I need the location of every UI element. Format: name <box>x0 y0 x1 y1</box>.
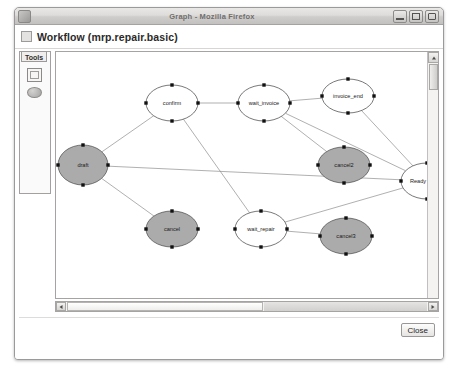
node-resize-handle[interactable] <box>344 216 347 219</box>
node-resize-handle[interactable] <box>288 101 291 104</box>
node-resize-handle[interactable] <box>56 163 59 166</box>
graph-edge[interactable] <box>102 178 154 216</box>
node-resize-handle[interactable] <box>342 145 345 148</box>
node-resize-handle[interactable] <box>170 209 173 212</box>
main-region: Tools draftconfirmwait_invoiceinvoice_en… <box>19 51 439 359</box>
node-label: wait_repair <box>246 226 274 232</box>
workflow-graph[interactable]: draftconfirmwait_invoiceinvoice_endcance… <box>56 52 427 298</box>
horizontal-scrollbar-track[interactable] <box>264 302 427 311</box>
chevron-left-icon <box>60 305 63 309</box>
node-resize-handle[interactable] <box>262 119 265 122</box>
node-resize-handle[interactable] <box>320 94 323 97</box>
node-label: cancel3 <box>336 233 355 239</box>
node-resize-handle[interactable] <box>236 101 239 104</box>
node-resize-handle[interactable] <box>368 163 371 166</box>
node-label: cancel2 <box>334 162 353 168</box>
node-resize-handle[interactable] <box>170 119 173 122</box>
vertical-scrollbar-thumb[interactable] <box>429 64 438 90</box>
graph-node-ready_repair[interactable]: Ready Repair <box>399 161 427 200</box>
scroll-left-button[interactable] <box>56 302 66 311</box>
node-resize-handle[interactable] <box>318 234 321 237</box>
firefox-icon <box>18 10 31 23</box>
node-label: confirm <box>163 100 182 106</box>
graph-edge[interactable] <box>285 188 403 222</box>
window-title: Graph - Mozilla Firefox <box>31 12 393 21</box>
graph-node-cancel3[interactable]: cancel3 <box>318 216 373 255</box>
node-resize-handle[interactable] <box>196 227 199 230</box>
node-resize-handle[interactable] <box>346 111 349 114</box>
graph-canvas[interactable]: draftconfirmwait_invoiceinvoice_endcance… <box>56 52 427 298</box>
graph-edge[interactable] <box>183 119 249 213</box>
graph-canvas-frame: draftconfirmwait_invoiceinvoice_endcance… <box>55 51 439 299</box>
node-label: cancel <box>164 226 180 232</box>
node-resize-handle[interactable] <box>233 227 236 230</box>
node-resize-handle[interactable] <box>196 101 199 104</box>
node-resize-handle[interactable] <box>262 83 265 86</box>
horizontal-scrollbar[interactable] <box>55 301 439 312</box>
node-label: draft <box>77 162 89 168</box>
tools-panel-label: Tools <box>21 51 47 62</box>
vertical-scrollbar[interactable] <box>427 52 438 298</box>
node-resize-handle[interactable] <box>372 94 375 97</box>
window-controls <box>393 10 439 23</box>
graph-edge[interactable] <box>281 116 326 151</box>
graph-node-wait_repair[interactable]: wait_repair <box>233 209 288 248</box>
node-resize-handle[interactable] <box>170 245 173 248</box>
graph-window: Graph - Mozilla Firefox Workflow (mrp.re… <box>14 7 444 360</box>
node-resize-handle[interactable] <box>285 227 288 230</box>
rectangle-icon[interactable] <box>27 68 42 82</box>
graph-edge[interactable] <box>102 116 154 152</box>
node-label: Ready Repair <box>410 178 427 184</box>
node-resize-handle[interactable] <box>399 179 402 182</box>
graph-node-draft[interactable]: draft <box>56 143 109 186</box>
graph-edge[interactable] <box>287 231 320 234</box>
graph-node-cancel2[interactable]: cancel2 <box>316 145 371 184</box>
node-resize-handle[interactable] <box>81 143 84 146</box>
node-resize-handle[interactable] <box>170 83 173 86</box>
node-resize-handle[interactable] <box>144 101 147 104</box>
tools-panel: Tools <box>19 51 51 194</box>
close-button[interactable]: Close <box>401 323 435 337</box>
graph-node-invoice_end[interactable]: invoice_end <box>320 77 375 114</box>
node-label: wait_invoice <box>248 100 279 106</box>
node-resize-handle[interactable] <box>259 209 262 212</box>
graph-edge[interactable] <box>362 111 413 166</box>
node-resize-handle[interactable] <box>370 234 373 237</box>
scroll-up-button[interactable] <box>428 52 439 63</box>
node-label: invoice_end <box>333 93 363 99</box>
node-resize-handle[interactable] <box>344 252 347 255</box>
window-body: Workflow (mrp.repair.basic) Tools draftc… <box>15 25 443 359</box>
node-resize-handle[interactable] <box>346 77 349 80</box>
node-resize-handle[interactable] <box>259 245 262 248</box>
footer-divider <box>19 317 439 318</box>
node-resize-handle[interactable] <box>106 163 109 166</box>
graph-node-wait_invoice[interactable]: wait_invoice <box>236 83 291 122</box>
maximize-button[interactable] <box>409 10 423 23</box>
ellipse-icon[interactable] <box>27 87 42 98</box>
workflow-icon <box>21 31 32 42</box>
chevron-up-icon <box>432 56 436 59</box>
close-window-button[interactable] <box>425 10 439 23</box>
node-resize-handle[interactable] <box>316 163 319 166</box>
node-resize-handle[interactable] <box>81 183 84 186</box>
chevron-right-icon <box>432 305 435 309</box>
minimize-button[interactable] <box>393 10 407 23</box>
node-resize-handle[interactable] <box>144 227 147 230</box>
window-titlebar[interactable]: Graph - Mozilla Firefox <box>15 8 443 25</box>
page-title: Workflow (mrp.repair.basic) <box>37 31 178 43</box>
graph-edge[interactable] <box>290 98 322 101</box>
node-resize-handle[interactable] <box>342 181 345 184</box>
horizontal-scrollbar-thumb[interactable] <box>67 302 263 311</box>
scroll-right-button[interactable] <box>428 302 438 311</box>
page-header: Workflow (mrp.repair.basic) <box>15 25 443 49</box>
